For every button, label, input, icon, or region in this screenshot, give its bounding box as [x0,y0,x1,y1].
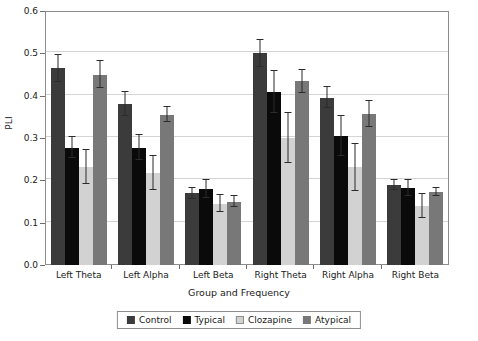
bar-slot [160,11,174,265]
bar-slot [118,11,132,265]
bar-slot [348,11,362,265]
bar[interactable] [401,188,415,265]
error-bar-cap-lower [135,159,142,160]
bar[interactable] [387,185,401,265]
error-bar-cap-upper [391,179,398,180]
error-bar-cap-upper [163,106,170,107]
error-bar-cap-lower [231,206,238,207]
error-bar-cap-lower [391,189,398,190]
bar-groups [45,11,449,265]
bar[interactable] [199,189,213,265]
error-bar-cap-lower [189,198,196,199]
chart-legend: ControlTypicalClozapineAtypical [117,311,361,329]
legend-item[interactable]: Control [127,315,172,325]
bar[interactable] [185,193,199,265]
bar-slot [295,11,309,265]
y-axis-tick-label: 0.5 [0,48,38,58]
error-bar [259,40,260,67]
error-bar-cap-lower [298,92,305,93]
bar-chart: PLI 0.00.10.20.30.40.50.6 Left ThetaLeft… [0,0,478,341]
y-axis-tick-label: 0.3 [0,133,38,143]
bar[interactable] [132,148,146,265]
bar-group [112,11,179,265]
bar[interactable] [93,75,107,266]
bar[interactable] [118,104,132,265]
x-axis-category-label: Right Alpha [314,270,381,280]
error-bar [301,70,302,93]
bar[interactable] [51,68,65,265]
y-axis-title: PLI [4,116,14,130]
legend-item[interactable]: Atypical [303,315,351,325]
error-bar-cap-lower [323,107,330,108]
error-bar-cap-lower [68,157,75,158]
x-axis-category-label: Right Theta [247,270,314,280]
bar[interactable] [160,115,174,265]
bar[interactable] [362,114,376,265]
error-bar-cap-upper [270,70,277,71]
bar-group [45,11,112,265]
error-bar-cap-lower [433,195,440,196]
legend-swatch-icon [127,316,135,324]
error-bar-cap-upper [189,187,196,188]
bar-slot [51,11,65,265]
x-axis-category-label: Left Beta [180,270,247,280]
bar[interactable] [295,81,309,265]
bar-slot [227,11,241,265]
x-axis-tick-mark [313,265,314,269]
x-axis-category-label: Right Beta [382,270,449,280]
error-bar-cap-lower [270,112,277,113]
legend-label: Clozapine [248,315,292,325]
bar-slot [334,11,348,265]
error-bar [57,55,58,82]
bar[interactable] [213,204,227,265]
error-bar-cap-upper [121,91,128,92]
error-bar-cap-lower [149,189,156,190]
error-bar-cap-upper [203,179,210,180]
legend-item[interactable]: Clozapine [236,315,292,325]
error-bar-cap-upper [68,136,75,137]
error-bar-cap-upper [365,100,372,101]
bar-slot [401,11,415,265]
bar-slot [429,11,443,265]
bar[interactable] [267,92,281,265]
bar-group [180,11,247,265]
bar[interactable] [227,202,241,266]
error-bar [273,71,274,113]
error-bar [326,87,327,108]
y-axis-tick-label: 0.1 [0,218,38,228]
bar-slot [213,11,227,265]
bar[interactable] [65,148,79,265]
error-bar [287,113,288,162]
bar-slot [146,11,160,265]
error-bar-cap-upper [298,69,305,70]
bar-slot [185,11,199,265]
error-bar-cap-upper [96,60,103,61]
y-axis-tick-label: 0.0 [0,260,38,270]
x-axis-tick-mark [246,265,247,269]
bar[interactable] [429,192,443,265]
bar[interactable] [253,53,267,265]
error-bar-cap-lower [419,217,426,218]
error-bar [166,107,167,122]
bar-slot [320,11,334,265]
error-bar [152,156,153,190]
y-axis-tick-label: 0.6 [0,6,38,16]
bar-group-bars [112,11,179,265]
error-bar [408,180,409,195]
error-bar-cap-upper [82,149,89,150]
error-bar-cap-lower [337,155,344,156]
legend-item[interactable]: Typical [182,315,225,325]
bar-group-bars [247,11,314,265]
bar-group-bars [382,11,449,265]
error-bar-cap-lower [121,115,128,116]
error-bar [85,150,86,184]
error-bar-cap-upper [135,134,142,135]
bar-group [382,11,449,265]
y-axis-tick-mark [40,265,45,266]
bar-slot [79,11,93,265]
x-axis-tick-mark [111,265,112,269]
bar[interactable] [320,98,334,265]
bar-slot [387,11,401,265]
error-bar-cap-upper [433,187,440,188]
error-bar [220,195,221,212]
